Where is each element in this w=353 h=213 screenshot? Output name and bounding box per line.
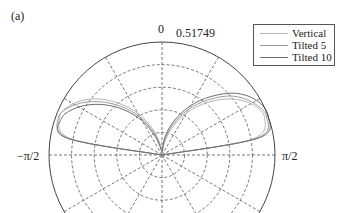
data-curves bbox=[57, 93, 270, 155]
theta-label-top: 0 bbox=[158, 23, 164, 35]
legend-item-vertical: Vertical bbox=[254, 27, 334, 39]
panel-label: (a) bbox=[11, 10, 24, 22]
legend: Vertical Tilted 5 Tilted 10 bbox=[253, 24, 335, 66]
polar-grid bbox=[49, 42, 275, 213]
legend-swatch bbox=[260, 57, 288, 58]
legend-item-tilted-5: Tilted 5 bbox=[254, 39, 334, 51]
legend-swatch bbox=[260, 45, 288, 46]
legend-label: Tilted 10 bbox=[292, 51, 332, 63]
r-max-label: 0.51749 bbox=[176, 27, 215, 39]
legend-label: Vertical bbox=[292, 27, 326, 39]
theta-label-right: π/2 bbox=[282, 150, 297, 162]
legend-item-tilted-10: Tilted 10 bbox=[254, 51, 334, 63]
legend-swatch bbox=[260, 33, 288, 34]
legend-label: Tilted 5 bbox=[292, 39, 326, 51]
theta-label-left: −π/2 bbox=[17, 150, 39, 162]
